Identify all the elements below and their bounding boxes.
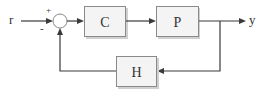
feedback-label: H (131, 65, 141, 80)
arrow-to-junction-icon (57, 28, 63, 35)
output-arrow-icon (239, 18, 246, 24)
summing-junction (53, 14, 67, 28)
arrow-to-p-icon (149, 18, 156, 24)
controller-label: C (100, 15, 109, 30)
block-diagram: r + - C P y H (0, 0, 269, 92)
plus-sign: + (46, 5, 51, 15)
input-label: r (9, 12, 14, 27)
output-label: y (249, 12, 256, 27)
minus-sign: - (40, 22, 44, 34)
arrow-to-c-icon (77, 18, 84, 24)
plant-label: P (174, 15, 182, 30)
input-arrow-icon (46, 18, 53, 24)
